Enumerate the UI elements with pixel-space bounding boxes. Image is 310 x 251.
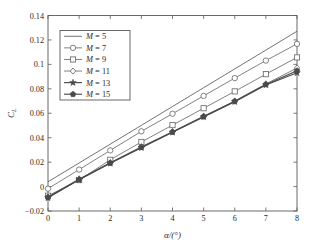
data-point-marker-square [232,89,237,94]
y-tick-label: 0.04 [30,134,44,143]
legend-label: M = 11 [85,67,110,76]
x-tick-label: 5 [202,214,206,223]
y-tick-label: 0.12 [30,36,44,45]
lift-coefficient-line-chart: 012345678−0.0200.020.040.060.080.10.120.… [0,0,310,251]
data-point-marker-circle [170,111,175,116]
data-point-marker-circle [263,58,268,63]
data-point-marker-square [263,72,268,77]
data-point-marker-circle [201,93,206,98]
y-tick-label: 0.02 [30,158,44,167]
x-tick-label: 7 [264,214,268,223]
legend: M = 5M = 7M = 9M = 11M = 13M = 15 [60,31,130,101]
data-point-marker-circle [232,75,237,80]
legend-label: M = 15 [85,90,110,99]
figure-container: 012345678−0.0200.020.040.060.080.10.120.… [0,0,310,251]
x-tick-label: 4 [170,214,174,223]
y-tick-label: −0.02 [25,207,44,216]
x-tick-label: 3 [139,214,143,223]
y-tick-label: 0.1 [34,60,44,69]
legend-label: M = 13 [85,79,110,88]
data-point-marker-circle [294,41,299,46]
data-point-marker-circle [70,45,75,50]
data-point-marker-circle [45,186,50,191]
x-tick-label: 0 [46,214,50,223]
data-point-marker-square [294,55,299,60]
x-tick-label: 2 [108,214,112,223]
x-axis-label: α/(°) [164,230,181,240]
data-point-marker-square [70,57,75,62]
data-point-marker-square [170,123,175,128]
y-tick-label: 0.06 [30,109,44,118]
x-tick-label: 8 [295,214,299,223]
y-tick-label: 0.08 [30,85,44,94]
y-tick-label: 0.14 [30,12,44,21]
data-point-marker-circle [108,148,113,153]
data-point-marker-circle [139,129,144,134]
data-point-marker-circle [76,167,81,172]
data-point-marker-square [201,106,206,111]
legend-label: M = 9 [85,55,106,64]
x-tick-label: 6 [233,214,237,223]
y-tick-label: 0 [40,183,44,192]
x-tick-label: 1 [77,214,81,223]
legend-label: M = 7 [85,44,106,53]
legend-label: M = 5 [85,32,106,41]
